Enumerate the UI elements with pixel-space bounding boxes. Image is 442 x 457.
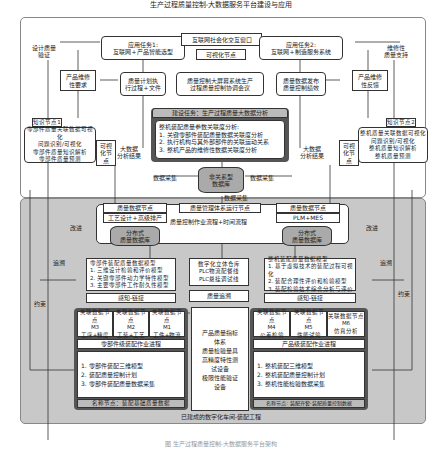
build-task-content: 整机装配质量参数关联度分析: 1. 关键零部件装配质量数据关联度分析 2. 执行…	[155, 120, 285, 159]
list-item: 1. 零部件装配三维模型	[81, 361, 143, 370]
digital-warehouse: 数字化立体仓库 PLC物流配餐线 PLC悬挂调试线	[189, 258, 249, 286]
vis-node-left: 可视 化节 点	[96, 140, 116, 166]
node-desc: 公差检验	[260, 332, 284, 340]
task2-title: 应用任务2:	[286, 41, 316, 49]
mgmt-node: 质量管理体系运行节点	[179, 203, 261, 213]
node-id: M3	[91, 324, 99, 332]
assoc-node-m4: 关联数据节点M4公差检验	[253, 311, 290, 337]
data-collect-right: 数据采集	[250, 174, 274, 181]
improve-left: 改进	[70, 224, 82, 231]
control-flow: 质量控制作业流程+时间流程	[170, 218, 247, 225]
task2-box: 应用任务2: 互联网+制造服务系统	[259, 36, 343, 60]
node-desc: 工装+工艺	[117, 332, 146, 340]
assoc-tag: 关联数据节点	[328, 313, 364, 321]
list-item: 3. 零部件装配质量数据采集	[81, 379, 155, 388]
knowledge-line: 整机质量预测	[375, 153, 411, 161]
quality-node-left: 质量数据节点	[103, 203, 167, 213]
plan-exec-box: 质量计划执 行过程+文件	[120, 72, 166, 96]
assoc-tag: 关联数据节点	[78, 309, 112, 324]
node-desc: 工序+精度	[81, 332, 110, 340]
node-id: M4	[267, 324, 275, 332]
trace-right: 追溯	[380, 259, 392, 266]
build-task-title: 建设任务：生产过程质量大数据分析	[152, 108, 288, 118]
node-id: M5	[304, 324, 312, 332]
knowledge-line: 零部件质量预测	[39, 156, 81, 164]
assoc-tag: 关联数据节点	[291, 309, 326, 324]
task1-sub: 互联网+产品智能选型	[113, 48, 172, 56]
machine-quality-model: 整机装配质量数据模型 1. 基于虚拟技术的装配过程可视化 2. 装配合理性评价和…	[264, 258, 356, 291]
visual-node: 可视化节点	[196, 49, 246, 60]
build-task-item: 3. 整机产品的维修性数据关联度分析	[159, 146, 257, 154]
name-node-right: 名称节点: 装配齐套-装配质量控制数据	[253, 399, 365, 408]
part-level-progress: 零部件级装配作业进程	[77, 339, 185, 349]
task1-box: 应用任务1: 互联网+产品智能选型	[101, 36, 185, 60]
design-quality-label: 设计质量 验证	[32, 44, 56, 58]
node-id: M6	[342, 320, 350, 328]
task2-sub: 互联网+制造服务系统	[271, 48, 330, 56]
constraint-left: 约束	[34, 300, 46, 307]
knowledge-line: 问题识别/可视化	[371, 138, 415, 146]
node-desc: 性能试验	[297, 332, 321, 340]
knowledge-node-2: 整机质量关联数据可视化 问题识别/可视化 整机质量知识解析 整机质量预测	[358, 127, 428, 163]
list-item: 3. 整机性能检验数据采集	[257, 379, 325, 388]
data-collect-left: 数据采集	[153, 174, 177, 181]
knowledge-line: 问题识别/可视化	[38, 141, 82, 149]
interaction-window: 互联网社会化交互窗口	[181, 33, 262, 46]
vis-node-right: 可视 化节 点	[339, 140, 359, 166]
assoc-node-m5: 关联数据节点M5性能试验	[290, 311, 327, 337]
build-task-item: 1. 关键零部件装配质量数据关联度分析	[159, 131, 263, 139]
model-item: 1. 基于虚拟技术的装配过程可视化	[268, 263, 355, 278]
data-publish-box: 质量数据发布 质量控制绩效	[276, 72, 326, 96]
maintainability-feedback: 产品维修 性反馈	[352, 70, 388, 91]
improve-right: 改进	[366, 224, 378, 231]
part-model-title: 零部件装配质量数据模型	[90, 260, 156, 268]
knowledge-line: 零部件质量关联数据可视化	[25, 126, 95, 141]
maintainability-label: 维修性 质量支持	[384, 44, 408, 58]
model-item: 2. 关键零部件动力学特性模型	[90, 275, 169, 283]
knowledge-line: 整机质量知识解析	[369, 145, 417, 153]
process-design: 工艺设计+高级排产	[103, 213, 167, 223]
plm-mes: PLM+MES	[276, 213, 340, 223]
assoc-tag: 关联数据节点	[150, 309, 184, 324]
product-level-progress: 产品级装配作业进程	[253, 339, 365, 349]
model-item: 3. 主要零部件工作耐久性模型	[90, 282, 169, 290]
build-task-heading: 整机装配质量参数关联度分析:	[159, 123, 239, 131]
build-task-item: 2. 执行机构与其外部部件的关联运动关系	[159, 138, 269, 146]
name-node-left: 名称节点：装配基础质量数据	[77, 399, 185, 408]
bigdata-result-right: 大数据 分析结果	[300, 145, 324, 159]
distributed-db-right: 分布式 质量数据库	[282, 226, 332, 246]
node-desc: 仿真分析	[334, 328, 358, 336]
assoc-tag: 关联数据节点	[114, 309, 148, 324]
list-item: 1. 整机装配三维模型	[257, 361, 313, 370]
model-item: 2. 装配合理性评价和检验模型	[268, 278, 347, 286]
part-quality-model: 零部件装配质量数据模型 1. 三维设计检验和评价模型 2. 关键零部件动力学特性…	[86, 258, 176, 291]
assoc-tag: 关联数据节点	[254, 309, 289, 324]
task1-title: 应用任务1:	[128, 41, 158, 49]
node-id: M2	[127, 324, 135, 332]
big-screen-box: 质量控制大屏幕系统生产 过程质量控制协调会议	[176, 72, 264, 96]
quality-trace: 质量追溯	[189, 290, 249, 302]
assoc-node-m3: 关联数据节点M3工序+精度	[77, 311, 113, 337]
quality-node-right: 质量数据节点	[276, 203, 340, 213]
data-collect-bottom: 数据采集	[224, 194, 248, 201]
list-item: 2. 装配质量控制计划	[81, 370, 137, 379]
part-list: 1. 零部件装配三维模型 2. 装配质量控制计划 3. 零部件装配质量数据采集	[77, 351, 185, 398]
assoc-node-m1: 关联数据节点M1工件+物流	[149, 311, 185, 337]
sense-link-left: 感知-链接	[86, 293, 176, 303]
workshop-footer: 已建成的数字化车间-装配工程	[0, 413, 442, 420]
sense-link-right: 感知-链接	[264, 293, 356, 303]
assoc-node-m6: 关联数据节点M6仿真分析	[327, 311, 365, 337]
figure-caption: 图 生产过程质量控制-大数据服务平台架构	[0, 440, 442, 447]
distributed-db-left: 分布式 质量数据库	[110, 226, 160, 246]
product-list: 1. 整机装配三维模型 2. 整机装配质量控制计划 3. 整机性能检验数据采集	[253, 351, 365, 398]
knowledge-line: 整机质量关联数据可视化	[360, 130, 426, 138]
bigdata-result-left: 大数据 分析结果	[117, 145, 141, 159]
trace-left: 追溯	[53, 259, 65, 266]
maintainability-req: 产品维修 性要求	[60, 70, 96, 91]
node-desc: 工件+物流	[153, 332, 182, 340]
constraint-right: 约束	[398, 290, 410, 297]
nosql-database: 非关系型 数据库	[198, 167, 244, 193]
quality-indicators: 产品质量指标 体系 质量检验量具 高精度特性测 试设备 极限性能验证 设备	[191, 307, 249, 411]
knowledge-node-1: 零部件质量关联数据可视化 问题识别/可视化 零部件质量知识解析 零部件质量预测	[24, 127, 96, 163]
node-id: M1	[163, 324, 171, 332]
